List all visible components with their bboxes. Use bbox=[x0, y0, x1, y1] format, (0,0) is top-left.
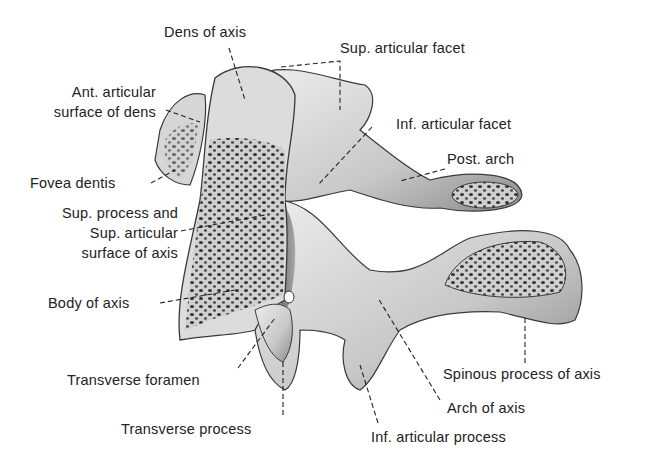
arch-of-axis-shape bbox=[255, 200, 582, 390]
label-transverse-foramen: Transverse foramen bbox=[67, 372, 200, 389]
label-sup-process-line2: Sup. articular bbox=[20, 225, 178, 242]
posterior-arch-shape bbox=[255, 70, 522, 212]
label-inf-articular-facet: Inf. articular facet bbox=[396, 116, 511, 133]
label-sup-process-line1: Sup. process and bbox=[20, 205, 178, 222]
label-ant-articular-surface-line1: Ant. articular bbox=[44, 84, 156, 101]
label-fovea-dentis: Fovea dentis bbox=[30, 175, 115, 192]
label-spinous-process: Spinous process of axis bbox=[443, 366, 601, 383]
label-sup-process-line3: surface of axis bbox=[20, 245, 178, 262]
label-arch-of-axis: Arch of axis bbox=[447, 400, 525, 417]
label-dens-of-axis: Dens of axis bbox=[164, 24, 246, 41]
label-sup-articular-facet: Sup. articular facet bbox=[340, 40, 465, 57]
label-transverse-process: Transverse process bbox=[121, 421, 251, 438]
label-inf-articular-process: Inf. articular process bbox=[371, 429, 506, 446]
label-body-of-axis: Body of axis bbox=[48, 295, 129, 312]
label-post-arch: Post. arch bbox=[447, 151, 514, 168]
label-ant-articular-surface-line2: surface of dens bbox=[24, 104, 156, 121]
anatomy-figure: Dens of axis Sup. articular facet Ant. a… bbox=[0, 0, 672, 460]
